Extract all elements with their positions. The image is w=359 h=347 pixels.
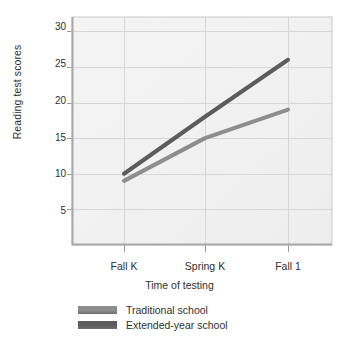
legend-swatch-extended-year (78, 321, 117, 329)
plot-area (0, 0, 359, 260)
legend-label-traditional: Traditional school (126, 304, 208, 316)
legend-item-traditional: Traditional school (78, 303, 228, 317)
x-tick-label-spring-k: Spring K (185, 260, 225, 272)
legend-label-extended-year: Extended-year school (126, 319, 228, 331)
line-chart-figure: Reading test scores 30 25 20 15 10 5 Fal… (0, 0, 359, 347)
chart-legend: Traditional school Extended-year school (78, 303, 228, 333)
plot-background (72, 17, 332, 245)
x-axis-title: Time of testing (0, 279, 359, 291)
legend-swatch-traditional (78, 306, 117, 314)
legend-item-extended-year: Extended-year school (78, 318, 228, 332)
x-tick-label-fall-1: Fall 1 (275, 260, 301, 272)
x-tick-label-fall-k: Fall K (111, 260, 138, 272)
